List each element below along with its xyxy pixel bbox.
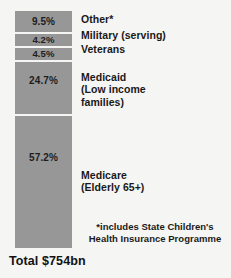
label-medicare: Medicare (Elderly 65+) <box>81 169 144 194</box>
bar-segment-medicaid-value: 24.7% <box>29 76 58 86</box>
bar-segment-military-value: 4.2% <box>32 35 54 45</box>
bar-segment-medicaid: 24.7% <box>15 62 72 114</box>
bar-segment-medicare-value: 57.2% <box>29 153 58 163</box>
bar-segment-medicare: 57.2% <box>15 116 72 248</box>
footnote-line-1: *includes State Children's <box>84 221 226 233</box>
bar-segment-other-value: 9.5% <box>32 17 55 27</box>
bar-segment-veterans-value: 4.5% <box>32 49 54 59</box>
label-other: Other* <box>81 13 113 25</box>
bar-segment-veterans: 4.5% <box>15 48 72 60</box>
bar-segment-military: 4.2% <box>15 34 72 46</box>
label-medicaid: Medicaid (Low income families) <box>81 71 146 108</box>
total-label: Total $754bn <box>9 254 86 268</box>
footnote: *includes State Children's Health Insura… <box>84 221 226 245</box>
label-military: Military (serving) <box>81 29 166 41</box>
footnote-line-2: Health Insurance Programme <box>84 233 226 245</box>
stacked-bar-column: 9.5% 4.2% 4.5% 24.7% 57.2% <box>15 11 72 248</box>
stacked-bar-chart: 9.5% 4.2% 4.5% 24.7% 57.2% Other* Milita… <box>0 0 231 278</box>
label-veterans: Veterans <box>81 43 125 55</box>
bar-segment-other: 9.5% <box>15 11 72 32</box>
